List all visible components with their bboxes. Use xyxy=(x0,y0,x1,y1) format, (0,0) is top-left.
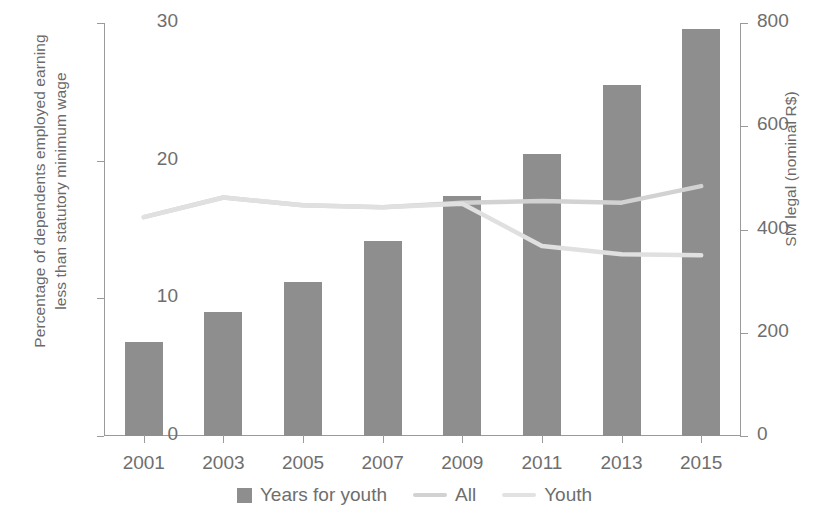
x-axis-tick-label-2005: 2005 xyxy=(263,452,343,474)
y-axis-right-tick-label: 400 xyxy=(757,217,789,239)
y-axis-right-tick-label: 0 xyxy=(757,423,768,445)
y-axis-right-tick xyxy=(740,126,748,127)
x-axis-tick xyxy=(542,435,543,443)
y-axis-right-tick xyxy=(740,333,748,334)
legend-label: Years for youth xyxy=(260,484,387,506)
y-axis-left-title: Percentage of dependents employed earnin… xyxy=(29,0,71,401)
y-axis-left-tick-label: 0 xyxy=(167,423,178,445)
x-axis-tick xyxy=(303,435,304,443)
x-axis-tick-label-2001: 2001 xyxy=(104,452,184,474)
y-axis-right-title: SM legal (nominal R$) xyxy=(782,19,800,319)
chart-figure: Percentage of dependents employed earnin… xyxy=(0,0,829,515)
x-axis-tick-label-2015: 2015 xyxy=(661,452,741,474)
line-series-group xyxy=(104,23,741,436)
x-axis-tick-label-2013: 2013 xyxy=(582,452,662,474)
y-axis-left-tick-label: 10 xyxy=(157,285,178,307)
x-axis-tick-label-2003: 2003 xyxy=(183,452,263,474)
plot-area xyxy=(104,23,741,436)
y-axis-right-tick-label: 600 xyxy=(757,113,789,135)
y-axis-left-tick xyxy=(97,161,104,162)
line-series-youth xyxy=(144,197,701,255)
legend-item-years-for-youth[interactable]: Years for youth xyxy=(237,484,387,506)
x-axis-tick xyxy=(144,435,145,443)
legend-line-swatch-icon xyxy=(413,493,447,497)
x-axis-tick xyxy=(462,435,463,443)
chart-legend: Years for youthAllYouth xyxy=(0,484,829,506)
y-axis-right-tick xyxy=(740,436,748,437)
y-axis-left-tick xyxy=(97,298,104,299)
y-axis-left-tick-label: 30 xyxy=(157,10,178,32)
y-axis-left-title-line2: less than statutory minimum wage xyxy=(50,0,71,401)
x-axis-tick xyxy=(701,435,702,443)
legend-label: Youth xyxy=(544,484,592,506)
x-axis-tick xyxy=(383,435,384,443)
legend-bar-swatch-icon xyxy=(237,488,252,503)
y-axis-left-tick xyxy=(97,23,104,24)
y-axis-right-tick xyxy=(740,230,748,231)
y-axis-right-tick-label: 200 xyxy=(757,320,789,342)
legend-item-all[interactable]: All xyxy=(413,484,476,506)
x-axis-tick xyxy=(622,435,623,443)
y-axis-right-tick-label: 800 xyxy=(757,10,789,32)
x-axis-tick-label-2007: 2007 xyxy=(343,452,423,474)
y-axis-right-tick xyxy=(740,23,748,24)
y-axis-left-title-line1: Percentage of dependents employed earnin… xyxy=(29,0,50,401)
legend-label: All xyxy=(455,484,476,506)
x-axis-tick-label-2011: 2011 xyxy=(502,452,582,474)
x-axis-tick-label-2009: 2009 xyxy=(422,452,502,474)
y-axis-left-tick-label: 20 xyxy=(157,148,178,170)
line-series-all xyxy=(144,186,701,217)
y-axis-left-tick xyxy=(97,436,104,437)
legend-item-youth[interactable]: Youth xyxy=(502,484,592,506)
legend-line-swatch-icon xyxy=(502,493,536,497)
x-axis-tick xyxy=(223,435,224,443)
